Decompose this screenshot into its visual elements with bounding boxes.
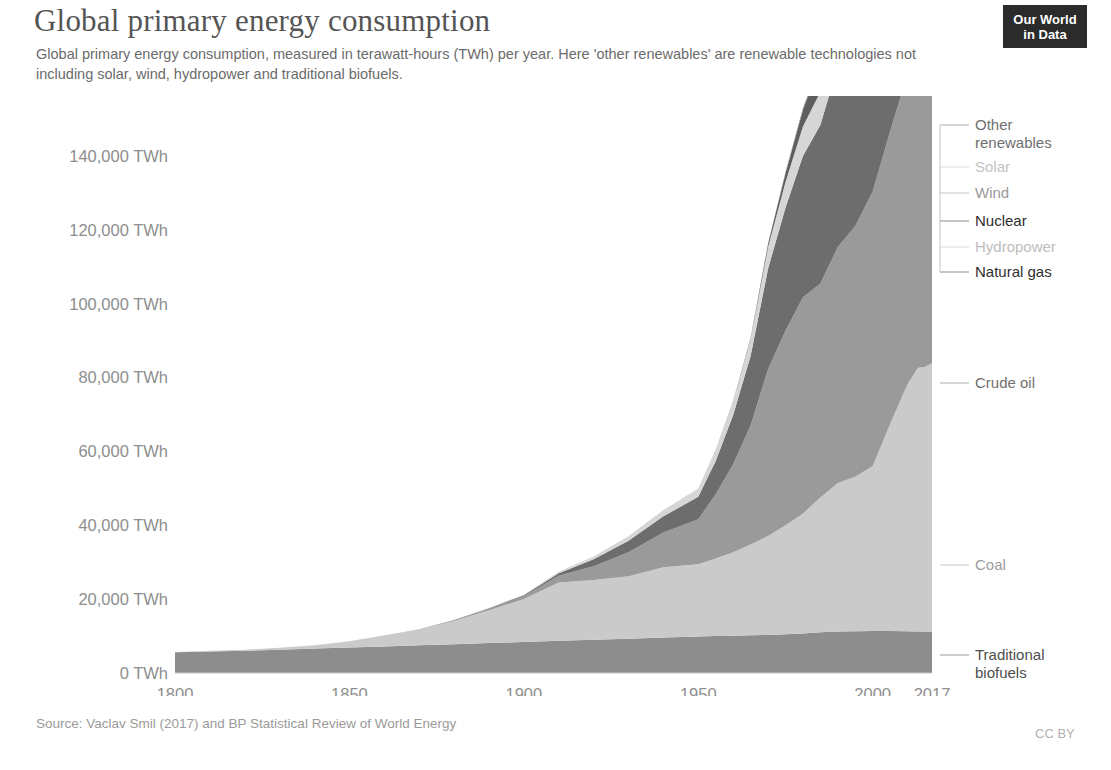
chart-page: Global primary energy consumption Global…: [0, 0, 1111, 770]
y-axis-tick-label: 120,000 TWh: [69, 221, 168, 239]
x-axis-tick-label: 1850: [331, 685, 368, 696]
y-axis: 0 TWh20,000 TWh40,000 TWh60,000 TWh80,00…: [69, 147, 168, 682]
our-world-in-data-logo[interactable]: Our World in Data: [1003, 5, 1087, 48]
y-axis-tick-label: 80,000 TWh: [78, 368, 168, 386]
logo-line-1: Our World: [1013, 12, 1076, 27]
legend-label-other-renewables-line2[interactable]: renewables: [975, 134, 1052, 151]
source-note: Source: Vaclav Smil (2017) and BP Statis…: [36, 716, 456, 731]
y-axis-tick-label: 60,000 TWh: [78, 442, 168, 460]
y-axis-tick-label: 20,000 TWh: [78, 590, 168, 608]
logo-line-2: in Data: [1023, 27, 1066, 42]
legend-label-wind[interactable]: Wind: [975, 184, 1009, 201]
stacked-area-chart: 0 TWh20,000 TWh40,000 TWh60,000 TWh80,00…: [0, 96, 1111, 696]
legend-label-hydropower[interactable]: Hydropower: [975, 238, 1056, 255]
y-axis-tick-label: 0 TWh: [120, 664, 168, 682]
chart-legend: OtherrenewablesSolarWindNuclearHydropowe…: [940, 116, 1056, 681]
chart-subtitle: Global primary energy consumption, measu…: [36, 44, 926, 84]
legend-label-traditional-biofuels[interactable]: Traditional: [975, 646, 1044, 663]
x-axis-tick-label: 1800: [157, 685, 194, 696]
x-axis-tick-label: 1900: [505, 685, 542, 696]
legend-label-nuclear[interactable]: Nuclear: [975, 212, 1027, 229]
area-series-group: [175, 96, 932, 673]
x-axis-tick-label: 2000: [854, 685, 891, 696]
legend-label-crude-oil[interactable]: Crude oil: [975, 374, 1035, 391]
y-axis-tick-label: 140,000 TWh: [69, 147, 168, 165]
page-title: Global primary energy consumption: [34, 3, 490, 39]
legend-label-solar[interactable]: Solar: [975, 158, 1010, 175]
legend-label-natural-gas[interactable]: Natural gas: [975, 263, 1052, 280]
legend-label-traditional-biofuels-line2[interactable]: biofuels: [975, 664, 1027, 681]
legend-label-coal[interactable]: Coal: [975, 556, 1006, 573]
chart-svg: 0 TWh20,000 TWh40,000 TWh60,000 TWh80,00…: [0, 96, 1111, 696]
y-axis-tick-label: 40,000 TWh: [78, 516, 168, 534]
legend-label-other-renewables[interactable]: Other: [975, 116, 1013, 133]
license-note[interactable]: CC BY: [1035, 726, 1075, 741]
y-axis-tick-label: 100,000 TWh: [69, 295, 168, 313]
x-axis-tick-label: 1950: [680, 685, 717, 696]
x-axis: 180018501900195020002017: [157, 673, 951, 696]
x-axis-tick-label: 2017: [914, 685, 951, 696]
